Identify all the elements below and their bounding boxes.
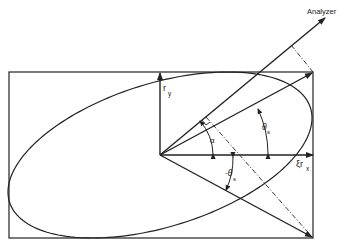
projection-line-upper — [291, 45, 313, 72]
ry-subscript: y — [168, 90, 172, 98]
analyzer-axis-arrow — [160, 18, 325, 155]
theta-s-arrow — [160, 73, 312, 155]
theta-s-subscript: s — [267, 129, 270, 135]
neg-theta-s-label: -θ — [225, 168, 233, 178]
xi-rx-label: ξr — [296, 159, 303, 169]
analyzer-label: Analyzer — [307, 7, 337, 16]
neg-theta-s-arrow — [160, 155, 312, 237]
ry-label: r — [163, 83, 166, 93]
projection-line-lower — [206, 117, 313, 238]
alpha-label: α — [210, 136, 215, 145]
neg-theta-s-subscript: s — [233, 176, 236, 182]
diagram-svg: Analyzer r y α θ s -θ s ξr x — [0, 0, 346, 245]
polarization-diagram: Analyzer r y α θ s -θ s ξr x — [0, 0, 346, 245]
xi-rx-subscript: x — [306, 165, 310, 172]
